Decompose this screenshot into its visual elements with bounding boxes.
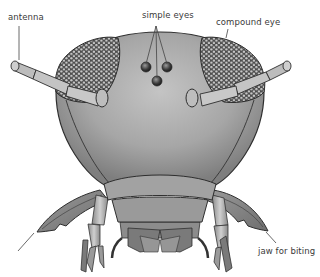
label-antenna: antenna bbox=[8, 13, 44, 22]
label-jaw-for-biting: jaw for biting bbox=[258, 247, 315, 256]
leader-jaw-left bbox=[18, 233, 34, 251]
insect-head-diagram: antenna simple eyes compound eye jaw for… bbox=[0, 0, 320, 277]
leader-compound-eye bbox=[226, 29, 228, 38]
leader-jaw-for-biting bbox=[266, 232, 276, 243]
label-compound-eye: compound eye bbox=[216, 18, 280, 27]
label-simple-eyes: simple eyes bbox=[142, 11, 194, 20]
mouthparts bbox=[112, 222, 208, 258]
insect-head-illustration bbox=[0, 0, 320, 277]
